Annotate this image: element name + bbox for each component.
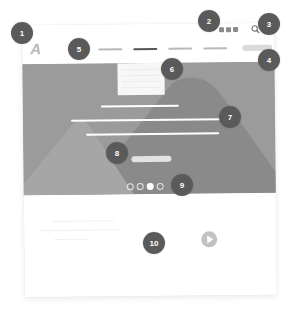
callout-badge: 2 [198, 10, 220, 32]
dropdown-menu[interactable] [117, 63, 164, 95]
carousel-dot-2[interactable] [137, 183, 144, 190]
social-links [219, 27, 238, 32]
social-icon-1[interactable] [219, 27, 224, 32]
main-navigation [98, 45, 272, 53]
dropdown-item[interactable] [122, 75, 161, 76]
nav-item-2[interactable] [133, 48, 157, 50]
carousel-dot-4[interactable] [157, 183, 164, 190]
dropdown-item[interactable] [121, 69, 160, 70]
callout-badge: 1 [11, 22, 33, 44]
callout-badge: 4 [258, 49, 280, 71]
callout-badge: 9 [171, 174, 193, 196]
dropdown-item[interactable] [122, 81, 161, 82]
carousel-dot-3[interactable] [147, 183, 154, 190]
social-icon-2[interactable] [226, 27, 231, 32]
nav-item-4[interactable] [203, 47, 227, 49]
nav-item-1[interactable] [98, 48, 122, 50]
hero-button[interactable] [131, 156, 171, 162]
callout-badge: 5 [68, 38, 90, 60]
carousel-indicators [127, 183, 164, 190]
callout-badge: 7 [219, 106, 241, 128]
hero-banner [22, 62, 275, 196]
callout-badge: 3 [258, 13, 280, 35]
callout-badge: 8 [106, 142, 128, 164]
callout-badge: 6 [161, 58, 183, 80]
carousel-dot-1[interactable] [127, 183, 134, 190]
body-text-placeholder [40, 220, 118, 248]
callout-badge: 10 [143, 232, 165, 254]
social-icon-3[interactable] [233, 27, 238, 32]
dropdown-item[interactable] [122, 87, 161, 88]
nav-item-3[interactable] [168, 48, 192, 50]
logo[interactable]: A [30, 41, 41, 56]
play-icon[interactable] [201, 231, 217, 247]
wireframe-page: A [22, 23, 277, 298]
